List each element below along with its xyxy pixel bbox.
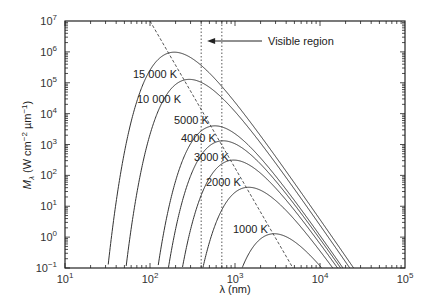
y-tick-label: 106 — [40, 44, 57, 58]
curve-1000k — [242, 234, 321, 268]
series-label-1000k: 1000 K — [233, 223, 269, 235]
annotations — [150, 21, 293, 268]
series-label-4000k: 4000 K — [181, 132, 217, 144]
x-tick-label: 104 — [312, 271, 329, 285]
y-tick-label: 100 — [40, 229, 57, 243]
y-tick-label: 101 — [40, 198, 57, 212]
series-label-2000k: 2000 K — [206, 176, 242, 188]
y-tick-label: 10−1 — [36, 260, 58, 274]
x-tick-label: 102 — [142, 271, 159, 285]
arrow-head-icon — [207, 38, 215, 44]
y-tick-label: 107 — [40, 13, 57, 27]
y-tick-label: 102 — [40, 167, 57, 181]
y-tick-label: 103 — [40, 137, 57, 151]
x-tick-label: 105 — [397, 271, 414, 285]
series-label-3000k: 3000 K — [194, 151, 230, 163]
y-axis-label: Mλ (W cm−2 µm−1) — [20, 101, 36, 189]
blackbody-radiation-chart: 101102103104105 10−110010110210310410510… — [0, 0, 425, 307]
y-tick-labels: 10−1100101102103104105106107 — [36, 13, 58, 274]
curve-5000k — [158, 126, 343, 268]
y-tick-label: 104 — [40, 106, 57, 120]
series-label-15000k: 15 000 K — [133, 68, 178, 80]
x-tick-label: 101 — [57, 271, 74, 285]
series-labels: 15 000 K10 000 K5000 K4000 K3000 K2000 K… — [133, 68, 269, 235]
visible-region-label: Visible region — [268, 35, 334, 47]
y-tick-label: 105 — [40, 75, 57, 89]
series-label-5000k: 5000 K — [174, 114, 210, 126]
series-label-10000k: 10 000 K — [137, 93, 182, 105]
x-axis-label: λ (nm) — [219, 283, 250, 295]
